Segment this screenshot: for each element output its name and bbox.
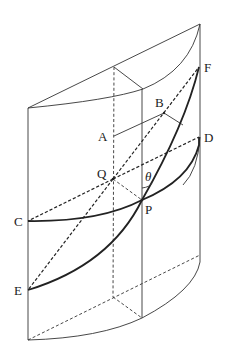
label-B: B — [155, 95, 164, 110]
top-radius-line — [114, 67, 143, 89]
label-D: D — [204, 130, 213, 145]
label-theta: θ — [145, 169, 152, 184]
label-A: A — [98, 129, 108, 144]
segment-QF — [113, 67, 199, 179]
segment-AB — [114, 113, 164, 136]
point-B — [163, 112, 165, 114]
label-Q: Q — [97, 166, 107, 181]
label-F: F — [204, 60, 211, 75]
label-E: E — [14, 283, 22, 298]
segment-QP — [113, 179, 142, 200]
quarter-cylinder-diagram: F B A D Q θ P C E — [0, 0, 226, 363]
bottom-radius-line — [113, 297, 142, 318]
geometry-figure: F B A D Q θ P C E — [0, 0, 226, 363]
label-P: P — [145, 202, 152, 217]
point-Q — [112, 178, 115, 181]
hidden-axis — [113, 67, 114, 297]
point-P — [141, 199, 144, 202]
label-C: C — [14, 214, 23, 229]
bottom-front-arc — [28, 262, 200, 340]
